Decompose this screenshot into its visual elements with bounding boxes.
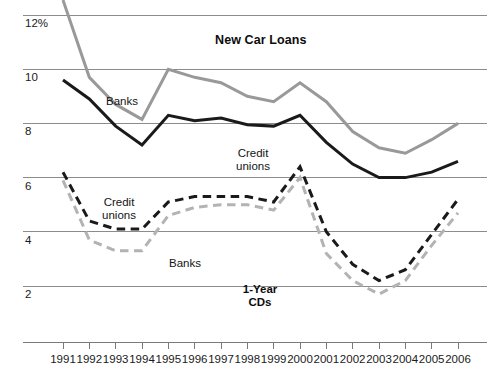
series-annotation-banks-cds: Banks (145, 257, 225, 270)
chart-figure: 12%108642 199119921993199419951996199719… (0, 0, 502, 380)
y-axis-tick-label: 12% (25, 17, 48, 30)
annotation-line: Banks (82, 95, 162, 108)
y-axis-tick-label: 2 (25, 288, 31, 301)
y-axis-tick-label: 4 (25, 234, 31, 247)
series-annotation-creditunions-loans: Creditunions (213, 147, 293, 173)
x-axis-group (23, 342, 487, 349)
series-annotation-cds-title: 1-YearCDs (220, 283, 300, 309)
y-axis-tick-label: 6 (25, 180, 31, 193)
annotation-line: 1-Year (220, 283, 300, 296)
annotation-line: Banks (145, 257, 225, 270)
annotation-line: Credit (79, 196, 159, 209)
line-chart-canvas (0, 0, 502, 380)
page-title: New Car Loans (215, 33, 307, 47)
annotation-line: unions (79, 209, 159, 222)
y-axis-tick-label: 10 (25, 71, 38, 84)
x-axis-tick-label: 2006 (441, 353, 475, 366)
y-axis-tick-label: 8 (25, 125, 31, 138)
series-annotation-creditunions-cds: Creditunions (79, 196, 159, 222)
annotation-line: CDs (220, 296, 300, 309)
annotation-line: Credit (213, 147, 293, 160)
annotation-line: unions (213, 160, 293, 173)
series-line-2 (63, 167, 458, 281)
series-annotation-banks-loans: Banks (82, 95, 162, 108)
